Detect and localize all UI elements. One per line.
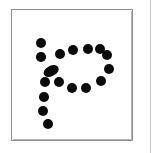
- stimulus-card-frame: [11, 9, 133, 141]
- glyph-dot-bowl-10: [102, 50, 112, 60]
- glyph-dot-stem-3: [43, 119, 53, 129]
- glyph-dot-bowl-1: [36, 38, 46, 48]
- screenshot-canvas: [0, 0, 154, 153]
- glyph-dot-bowl-4: [40, 77, 50, 87]
- glyph-dot-bowl-2: [36, 52, 46, 62]
- dotted-letter-glyph: [12, 10, 132, 140]
- glyph-dot-bowl-12: [96, 76, 106, 86]
- glyph-dot-stem-1: [39, 92, 49, 102]
- glyph-dot-bowl-14: [67, 83, 77, 93]
- glyph-dot-bowl-13: [81, 83, 91, 93]
- glyph-dot-stem-2: [38, 106, 48, 116]
- glyph-dot-bowl-7: [68, 45, 78, 55]
- glyph-dot-bowl-8: [83, 44, 93, 54]
- glyph-dot-bowl-5: [54, 77, 64, 87]
- glyph-dot-bowl-11: [104, 64, 114, 74]
- glyph-dot-bowl-6: [55, 49, 65, 59]
- panel-edge-right-divider: [150, 0, 151, 153]
